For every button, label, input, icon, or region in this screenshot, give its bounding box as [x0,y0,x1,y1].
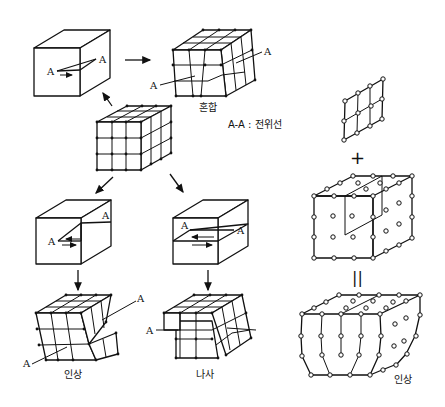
mixed-slip-block: A A [34,30,110,96]
label-a: A [22,358,31,369]
plus-symbol: + [350,147,365,168]
caption-edge: 인상 [64,369,82,380]
arrow-down-left [96,177,113,193]
edge-slip-block: A A [36,200,111,264]
atom-cube [312,174,414,260]
caption-screw: 나사 [196,369,214,380]
extra-half-plane [342,77,385,142]
label-a: A [180,220,189,231]
legend-dislocation-line: A-A : 전위선 [228,118,282,130]
arrow-up-left [103,93,112,106]
label-a: A [101,210,110,221]
label-a: A [145,325,154,336]
label-a: A [46,66,55,77]
label-a: A [149,80,158,91]
dislocation-diagram: A A A A 혼합 [0,0,445,407]
label-a: A [263,46,272,57]
label-a: A [98,54,107,65]
screw-lattice: A [145,294,256,360]
label-a: A [136,293,145,304]
caption-edge-right: 인상 [394,374,412,385]
label-a: A [236,225,245,236]
edge-lattice: A A [22,293,145,369]
screw-slip-block: A A [173,200,248,264]
perfect-lattice [96,105,173,172]
equals-symbol: || [352,268,363,287]
arrow-down-right [170,174,183,192]
mixed-lattice: A A [149,29,272,98]
edge-result [299,293,422,377]
label-a: A [47,236,56,247]
caption-mixed: 혼합 [199,101,217,113]
